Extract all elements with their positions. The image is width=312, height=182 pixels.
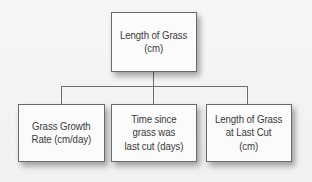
connector-child-3: [247, 86, 248, 104]
child-node-time-since-cut: Time since grass was last cut (days): [111, 104, 197, 162]
connector-root-down: [153, 71, 154, 87]
connector-child-1: [61, 86, 62, 104]
root-node-label: Length of Grass (cm): [120, 29, 187, 56]
child-node-length-at-last-cut: Length of Grass at Last Cut (cm): [206, 104, 292, 162]
connector-child-2: [153, 86, 154, 104]
child-node-label: Length of Grass at Last Cut (cm): [215, 113, 282, 154]
root-node-length-of-grass: Length of Grass (cm): [111, 12, 197, 72]
child-node-grass-growth-rate: Grass Growth Rate (cm/day): [18, 104, 105, 162]
child-node-label: Time since grass was last cut (days): [125, 113, 184, 154]
child-node-label: Grass Growth Rate (cm/day): [32, 120, 91, 147]
diagram-canvas: Length of Grass (cm) Grass Growth Rate (…: [0, 0, 312, 182]
connector-horizontal: [61, 86, 248, 87]
